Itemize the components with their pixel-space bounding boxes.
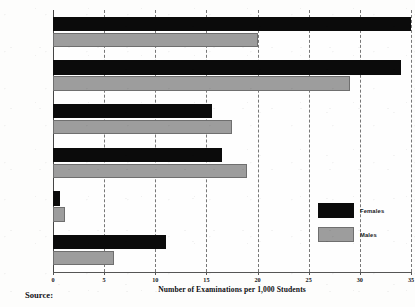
bar-foreign-language-males xyxy=(53,251,114,266)
legend-swatch-females xyxy=(318,203,354,218)
chart-page: EnglishSocial StudiesCalculusScienceComp… xyxy=(0,0,415,307)
bar-calculus-females xyxy=(53,104,212,119)
x-tick-label-30: 30 xyxy=(357,276,363,283)
x-tick-30 xyxy=(360,272,361,275)
bar-computer-science-males xyxy=(53,207,65,222)
bar-science-females xyxy=(53,148,222,163)
x-tick-5 xyxy=(104,272,105,275)
legend-label-females: Females xyxy=(360,208,384,214)
x-tick-label-5: 5 xyxy=(103,276,106,283)
x-tick-label-10: 10 xyxy=(152,276,158,283)
x-tick-25 xyxy=(309,272,310,275)
x-axis-title: Number of Examinations per 1,000 Student… xyxy=(53,285,411,294)
bar-english-females xyxy=(53,17,411,32)
legend-item-males: Males xyxy=(318,227,377,242)
legend-swatch-males xyxy=(318,227,354,242)
bar-social-studies-females xyxy=(53,60,401,75)
legend-item-females: Females xyxy=(318,203,384,218)
x-tick-label-25: 25 xyxy=(306,276,312,283)
x-tick-15 xyxy=(206,272,207,275)
bar-foreign-language-females xyxy=(53,235,166,250)
x-tick-0 xyxy=(53,272,54,275)
x-tick-label-0: 0 xyxy=(51,276,54,283)
source-label: Source: xyxy=(25,290,53,300)
x-tick-35 xyxy=(411,272,412,275)
legend-label-males: Males xyxy=(360,232,377,238)
x-tick-20 xyxy=(258,272,259,275)
x-tick-label-35: 35 xyxy=(408,276,414,283)
gridline-35 xyxy=(411,10,412,272)
bar-social-studies-males xyxy=(53,76,350,91)
x-tick-10 xyxy=(155,272,156,275)
bar-science-males xyxy=(53,164,247,179)
x-tick-label-20: 20 xyxy=(254,276,260,283)
bar-computer-science-females xyxy=(53,191,60,206)
x-tick-label-15: 15 xyxy=(203,276,209,283)
x-axis-line xyxy=(53,272,411,273)
bar-english-males xyxy=(53,33,258,48)
bar-calculus-males xyxy=(53,120,232,135)
